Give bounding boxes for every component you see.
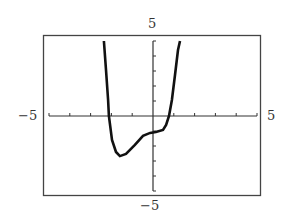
y-min-label: −5 bbox=[140, 199, 159, 212]
x-min-label: −5 bbox=[18, 109, 37, 122]
graph-window bbox=[0, 0, 284, 217]
y-max-label: 5 bbox=[148, 17, 156, 30]
function-curve bbox=[104, 41, 180, 156]
x-max-label: 5 bbox=[267, 109, 275, 122]
axes bbox=[49, 41, 257, 191]
